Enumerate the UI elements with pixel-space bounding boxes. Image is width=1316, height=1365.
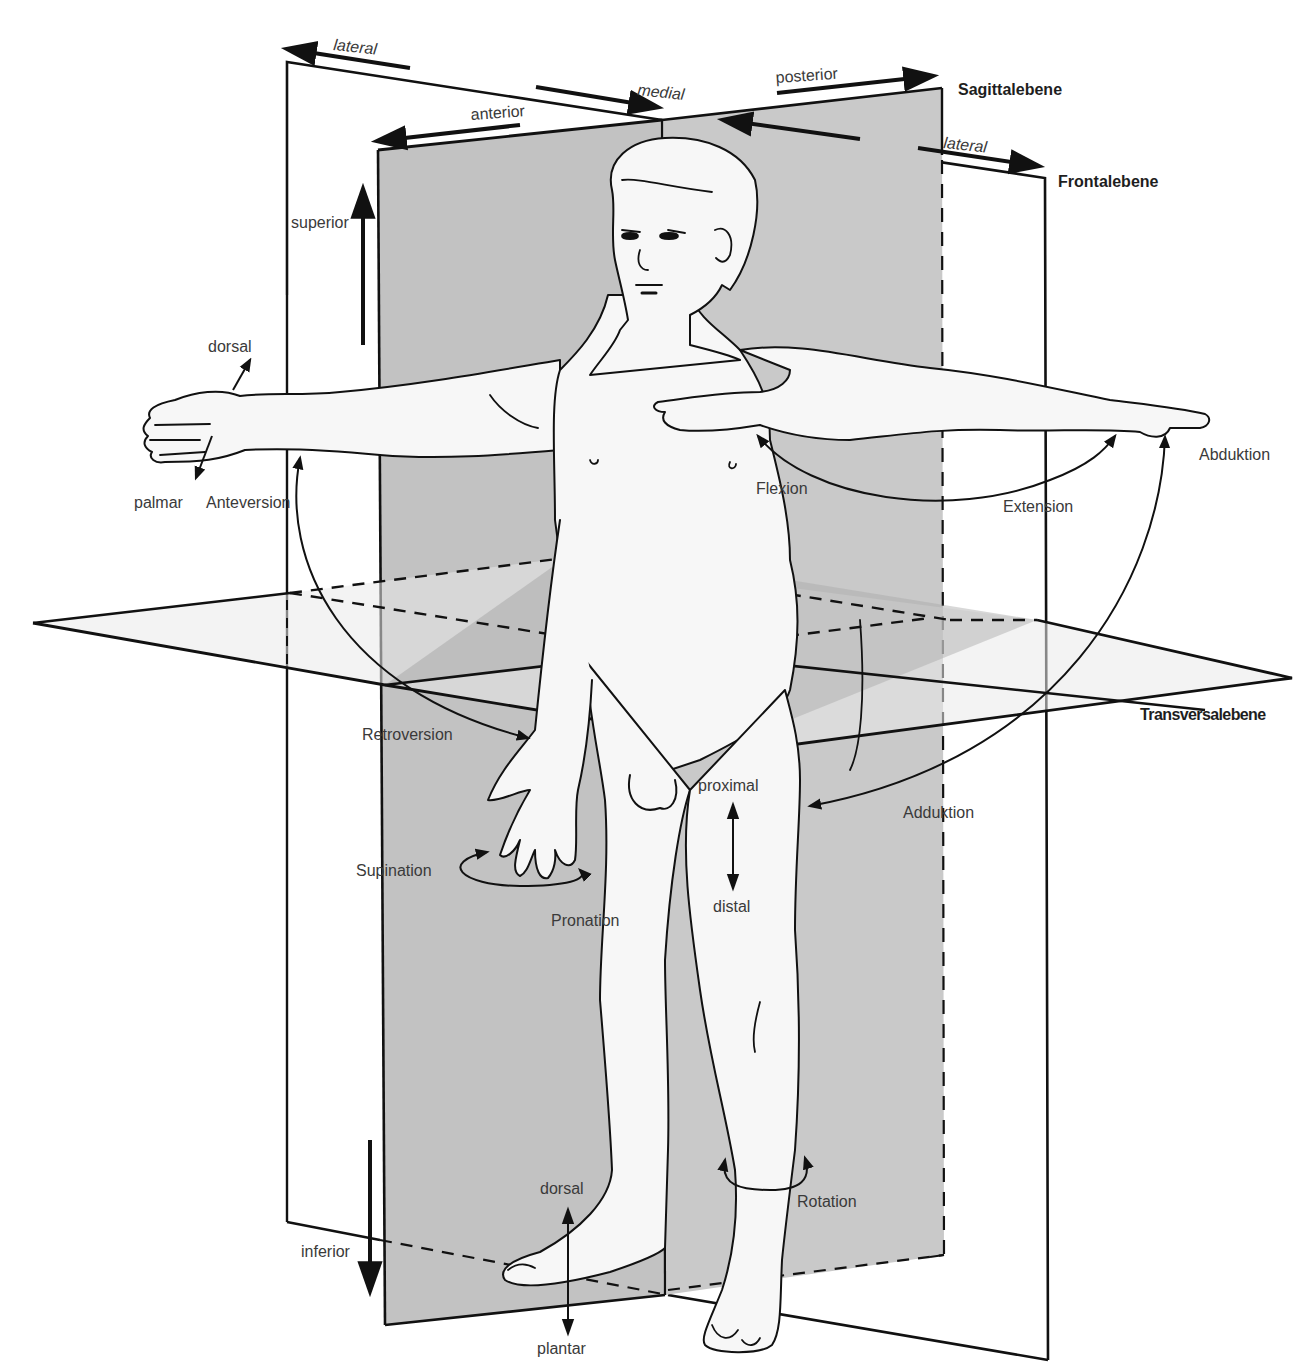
label-retroversion: Retroversion (362, 726, 453, 743)
label-extension: Extension (1003, 498, 1073, 515)
label-flexion: Flexion (756, 480, 808, 497)
label-sagittalebene: Sagittalebene (958, 81, 1062, 98)
label-inferior: inferior (301, 1243, 351, 1260)
label-proximal: proximal (698, 777, 758, 794)
label-lateral-left: lateral (333, 36, 379, 58)
label-pronation: Pronation (551, 912, 620, 929)
label-frontalebene: Frontalebene (1058, 173, 1159, 190)
label-supination: Supination (356, 862, 432, 879)
label-superior: superior (291, 214, 349, 231)
label-anteversion: Anteversion (206, 494, 291, 511)
label-rotation: Rotation (797, 1193, 857, 1210)
label-adduktion: Adduktion (903, 804, 974, 821)
label-abduktion: Abduktion (1199, 446, 1270, 463)
label-posterior: posterior (775, 65, 839, 86)
label-plantar: plantar (537, 1340, 587, 1357)
genitals (629, 775, 676, 810)
label-medial: medial (637, 81, 686, 103)
label-palmar: palmar (134, 494, 184, 511)
label-transversalebene: Transversalebene (1140, 706, 1266, 723)
label-dorsal-hand: dorsal (208, 338, 252, 355)
label-distal: distal (713, 898, 750, 915)
label-dorsal-foot: dorsal (540, 1180, 584, 1197)
anatomical-planes-diagram: Sagittalebene Frontalebene Transversaleb… (0, 0, 1316, 1365)
arrow-dorsal-hand (233, 360, 250, 390)
